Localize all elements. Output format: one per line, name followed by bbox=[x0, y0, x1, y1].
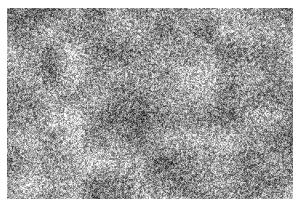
micrograph-image-frame bbox=[7, 8, 293, 199]
page-root: Grayscale micrograph showing a fine-grai… bbox=[0, 0, 300, 206]
micrograph-canvas bbox=[7, 8, 293, 199]
